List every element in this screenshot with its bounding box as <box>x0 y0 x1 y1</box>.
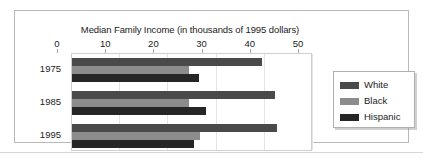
bar-group-1985 <box>72 87 311 120</box>
bar-hispanic-1975 <box>72 74 199 82</box>
bar-white-1985 <box>72 91 275 99</box>
x-tick-label-30: 30 <box>196 38 207 49</box>
legend-label-white: White <box>364 80 388 90</box>
chart-legend: WhiteBlackHispanic <box>333 71 415 128</box>
legend-swatch-black <box>340 98 359 105</box>
page-divider <box>0 152 423 153</box>
y-tick-label-1975: 1975 <box>40 63 61 74</box>
y-axis-category-labels: 197519851995 <box>15 53 67 151</box>
bar-black-1985 <box>72 99 189 107</box>
bar-group-1995 <box>72 119 311 152</box>
bar-hispanic-1995 <box>72 140 194 148</box>
bar-hispanic-1985 <box>72 107 206 115</box>
x-tick-label-50: 50 <box>293 38 304 49</box>
bar-group-1975 <box>72 54 311 87</box>
x-tick-label-40: 40 <box>245 38 256 49</box>
bar-black-1975 <box>72 66 189 74</box>
grid-line <box>312 54 313 150</box>
chart-figure: Median Family Income (in thousands of 19… <box>14 10 409 143</box>
bar-white-1975 <box>72 58 262 66</box>
legend-item-white: White <box>340 78 388 92</box>
bar-black-1995 <box>72 132 200 140</box>
x-tick-label-20: 20 <box>148 38 159 49</box>
y-tick-label-1985: 1985 <box>40 96 61 107</box>
x-tick-label-0: 0 <box>54 38 59 49</box>
plot-area <box>71 53 312 151</box>
chart-title: Median Family Income (in thousands of 19… <box>55 24 325 35</box>
legend-item-hispanic: Hispanic <box>340 110 400 124</box>
legend-item-black: Black <box>340 94 387 108</box>
legend-swatch-hispanic <box>340 114 359 121</box>
legend-swatch-white <box>340 82 359 89</box>
legend-label-black: Black <box>364 96 387 106</box>
legend-label-hispanic: Hispanic <box>364 112 400 122</box>
x-tick-label-10: 10 <box>100 38 111 49</box>
bar-white-1995 <box>72 124 277 132</box>
y-tick-label-1995: 1995 <box>40 129 61 140</box>
